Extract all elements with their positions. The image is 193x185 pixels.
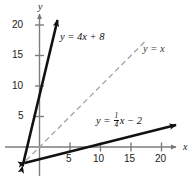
x-axis-label: x xyxy=(183,142,187,152)
x-tick-label-5: 5 xyxy=(66,154,72,164)
y-axis-label: y xyxy=(38,2,42,12)
equation-prefix: y = xyxy=(96,115,113,126)
y-tick-label-20: 20 xyxy=(12,20,23,30)
graph-figure: 20 15 10 5 5 10 15 20 y x y = 4x + 8 y =… xyxy=(0,0,193,185)
equation-label-4x-plus-8: y = 4x + 8 xyxy=(60,32,105,43)
equation-label-y-equals-x: y = x xyxy=(143,44,165,55)
y-tick-label-10: 10 xyxy=(12,81,23,91)
x-tick-label-15: 15 xyxy=(124,154,135,164)
x-tick-label-10: 10 xyxy=(93,154,104,164)
equation-label-quarter-x-minus-2: y = 14x − 2 xyxy=(96,112,142,129)
fraction-denominator: 4 xyxy=(114,121,120,129)
y-tick-label-5: 5 xyxy=(18,111,24,121)
line-y-equals-x xyxy=(26,41,146,161)
fraction-one-quarter: 14 xyxy=(114,112,120,129)
x-tick-label-20: 20 xyxy=(155,154,166,164)
y-tick-label-15: 15 xyxy=(12,50,23,60)
equation-suffix: x − 2 xyxy=(120,115,142,126)
